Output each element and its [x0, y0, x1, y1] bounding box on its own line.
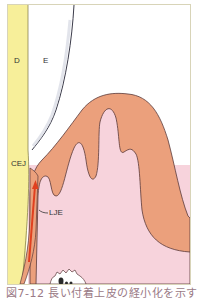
figure-caption: 図7-12 長い付着上皮の経小化を示す	[6, 288, 197, 298]
label-dentin: D	[14, 57, 20, 65]
label-cej: CEJ	[11, 160, 26, 168]
bone-marrow-spot	[59, 278, 64, 285]
diagram-canvas	[0, 0, 197, 298]
label-lje: LJE	[49, 209, 63, 217]
label-enamel: E	[43, 57, 48, 65]
periodontal-diagram: D E CEJ LJE 図7-12 長い付着上皮の経小化を示す	[0, 0, 197, 298]
